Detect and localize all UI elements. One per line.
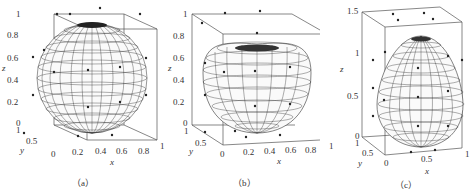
y-axis-label: y: [20, 145, 24, 155]
x-tick-06: 0.6: [116, 147, 127, 156]
y-tick-1: 1: [184, 127, 189, 136]
panel-c: 1.5 1 0.5 0 z 1 0.5 y 0 0.5 1 x （c）: [335, 0, 474, 194]
x-tick-08: 0.8: [138, 147, 149, 156]
z-tick-04: 0.4: [173, 76, 184, 85]
z-tick-1: 1: [355, 49, 360, 58]
z-tick-02: 0.2: [7, 98, 18, 107]
x-tick-02: 0.2: [243, 148, 254, 157]
y-tick-1: 1: [355, 139, 360, 148]
z-axis-label: z: [340, 64, 344, 74]
x-tick-08: 0.8: [305, 146, 316, 155]
z-axis-label: z: [168, 63, 172, 73]
x-tick-04: 0.4: [264, 147, 275, 156]
x-tick-04: 0.4: [95, 147, 106, 156]
x-tick-06: 0.6: [285, 146, 296, 155]
panel-b-caption: （b）: [233, 176, 256, 189]
panel-b: 1 0.8 0.6 0.4 0.2 0 z 1 0.5 y 0 0.2 0.4 …: [155, 0, 320, 194]
panel-a-caption: （a）: [72, 176, 94, 189]
z-tick-05: 0.5: [347, 92, 358, 101]
y-axis-label: y: [358, 158, 362, 168]
panel-c-caption: （c）: [395, 178, 417, 191]
z-tick-1: 1: [183, 10, 188, 19]
panel-a-x-tick-1: 1: [160, 142, 165, 151]
z-tick-08: 0.8: [173, 32, 184, 41]
x-tick-0: 0: [384, 159, 389, 168]
z-tick-08: 0.8: [7, 31, 18, 40]
panel-a: 1 0.8 0.6 0.4 0.2 0 z 1 0.5 y 0 0.2 0.4 …: [0, 0, 160, 194]
z-tick-06: 0.6: [173, 54, 184, 63]
z-axis-label: z: [2, 63, 6, 73]
z-tick-06: 0.6: [7, 54, 18, 63]
z-tick-1: 1: [16, 10, 21, 19]
x-tick-0: 0: [51, 150, 56, 159]
y-tick-1: 1: [16, 126, 21, 135]
x-axis-label: x: [277, 156, 281, 166]
y-tick-05: 0.5: [195, 139, 206, 148]
x-tick-05: 0.5: [421, 155, 432, 164]
z-tick-04: 0.4: [7, 76, 18, 85]
sphere-plot: [0, 0, 160, 194]
x-tick-1: 1: [465, 150, 470, 159]
y-tick-05: 0.5: [26, 137, 37, 146]
y-axis-label: y: [189, 146, 193, 156]
z-tick-15: 1.5: [347, 7, 358, 16]
x-axis-label: x: [110, 157, 114, 167]
y-tick-05: 0.5: [362, 149, 373, 158]
panel-b-x-tick-1: 1: [329, 142, 334, 151]
z-tick-02: 0.2: [173, 98, 184, 107]
x-tick-02: 0.2: [72, 148, 83, 157]
x-tick-0: 0: [220, 150, 225, 159]
x-axis-label: x: [425, 166, 429, 176]
